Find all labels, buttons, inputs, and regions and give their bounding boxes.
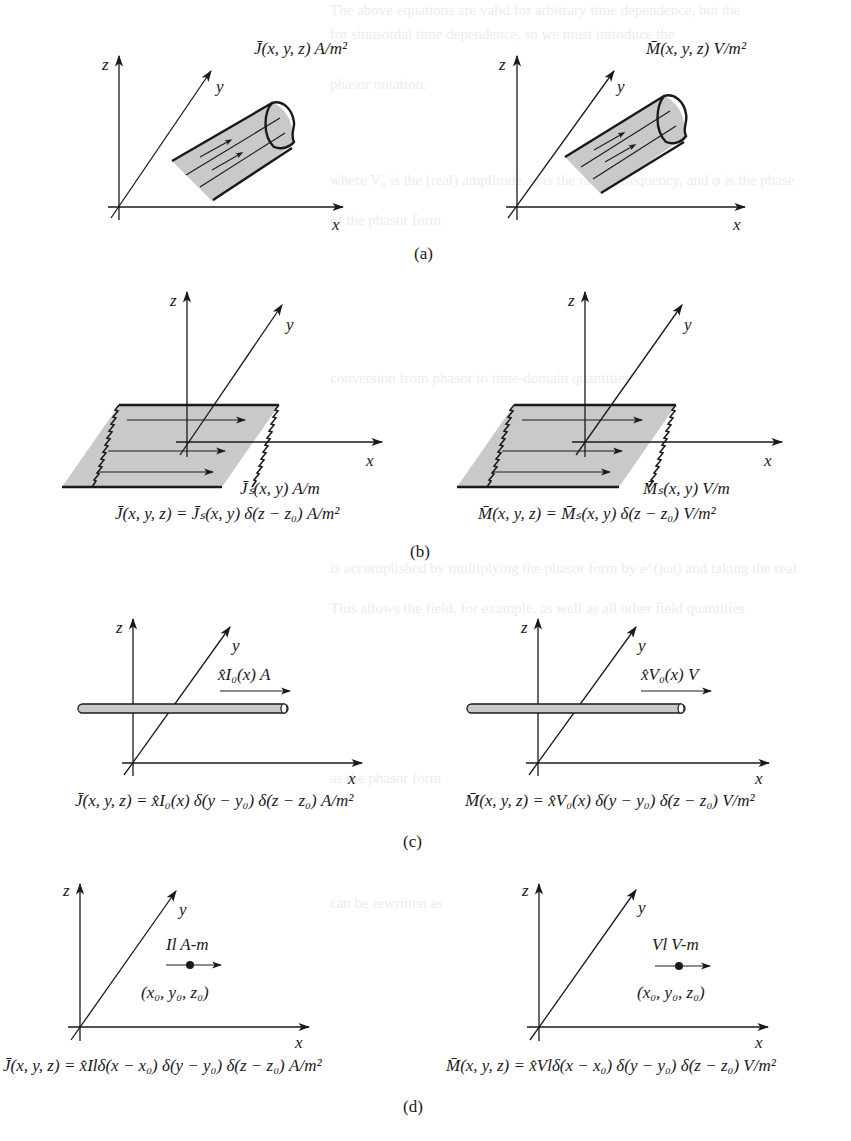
- svg-text:x: x: [754, 1033, 763, 1052]
- panel-b-right-equation: M̄(x, y, z) = M̄ₛ(x, y) δ(z − z₀) V/m²: [478, 505, 716, 522]
- panel-d-right-point-label: (x₀, y₀, z₀): [637, 984, 705, 1001]
- svg-text:z: z: [498, 55, 506, 74]
- svg-text:z: z: [62, 881, 70, 900]
- svg-text:x: x: [732, 215, 741, 234]
- panel-b-right-surface-current: z y x: [457, 291, 782, 487]
- panel-c-right-line-current: z y x: [467, 618, 769, 788]
- panel-a-left-label: J̄(x, y, z) A/m²: [254, 40, 347, 57]
- panel-a-caption: (a): [414, 244, 433, 264]
- svg-text:y: y: [636, 636, 646, 655]
- svg-text:z: z: [169, 291, 177, 310]
- line-current-wire: [78, 704, 288, 713]
- svg-text:x: x: [331, 215, 340, 234]
- svg-text:z: z: [567, 291, 575, 310]
- panel-d-right-dipole-label: Vl V-m: [652, 936, 699, 953]
- panel-d-caption: (d): [403, 1097, 423, 1117]
- svg-text:z: z: [101, 55, 109, 74]
- axes: z y x: [520, 618, 769, 788]
- svg-text:y: y: [615, 77, 625, 96]
- current-sheet: [62, 405, 279, 487]
- panel-b-right-sheet-label: M̄ₛ(x, y) V/m: [643, 480, 730, 497]
- svg-text:z: z: [520, 618, 528, 637]
- panel-c-left-equation: J̄(x, y, z) = x̂I₀(x) δ(y − y₀) δ(z − z₀…: [75, 792, 353, 809]
- figure-canvas: z y x z y x: [0, 0, 851, 1141]
- svg-text:y: y: [230, 636, 240, 655]
- dipole-point: [186, 961, 194, 969]
- magnetic-current-sheet: [457, 405, 676, 487]
- axes: z y x: [115, 618, 362, 788]
- panel-c-left-line-label: x̂I₀(x) A: [218, 666, 270, 683]
- panel-d-left-electric-dipole: z y x: [62, 881, 309, 1052]
- panel-c-right-line-label: x̂V₀(x) V: [641, 666, 698, 683]
- current-tube: [172, 102, 294, 202]
- magnetic-line-current-wire: [467, 704, 685, 713]
- panel-d-left-point-label: (x₀, y₀, z₀): [141, 984, 209, 1001]
- panel-a-left-volume-current: z y x: [101, 55, 343, 234]
- svg-text:z: z: [115, 618, 123, 637]
- panel-d-left-dipole-label: Il A-m: [166, 936, 209, 953]
- panel-b-left-equation: J̄(x, y, z) = J̄ₛ(x, y) δ(z − z₀) A/m²: [115, 505, 339, 522]
- svg-text:x: x: [294, 1033, 303, 1052]
- axes: z y x: [62, 881, 309, 1052]
- svg-text:x: x: [763, 451, 772, 470]
- panel-c-caption: (c): [403, 832, 422, 852]
- svg-text:x: x: [347, 769, 356, 788]
- dipole-point: [675, 962, 683, 970]
- panel-b-left-sheet-label: J̄ₛ(x, y) A/m: [240, 480, 320, 497]
- svg-text:y: y: [284, 315, 294, 334]
- svg-text:y: y: [177, 900, 187, 919]
- panel-c-right-equation: M̄(x, y, z) = x̂V₀(x) δ(y − y₀) δ(z − z₀…: [465, 792, 755, 809]
- panel-d-right-equation: M̄(x, y, z) = x̂Vlδ(x − x₀) δ(y − y₀) δ(…: [446, 1057, 776, 1074]
- svg-text:y: y: [214, 77, 224, 96]
- svg-text:x: x: [365, 451, 374, 470]
- svg-text:x: x: [754, 769, 763, 788]
- axes: z y x: [521, 881, 768, 1052]
- panel-a-right-label: M̄(x, y, z) V/m²: [646, 40, 746, 57]
- svg-text:z: z: [521, 881, 529, 900]
- panel-d-left-equation: J̄(x, y, z) = x̂Ilδ(x − x₀) δ(y − y₀) δ(…: [3, 1057, 322, 1074]
- svg-text:y: y: [682, 315, 692, 334]
- magnetic-current-tube: [565, 95, 686, 194]
- panel-a-right-volume-current: z y x: [498, 55, 745, 234]
- panel-d-right-magnetic-dipole: z y x: [521, 881, 768, 1052]
- svg-text:y: y: [636, 898, 646, 917]
- panel-b-left-surface-current: z y x: [62, 291, 382, 487]
- panel-c-left-line-current: z y x: [78, 618, 362, 788]
- panel-b-caption: (b): [410, 542, 430, 562]
